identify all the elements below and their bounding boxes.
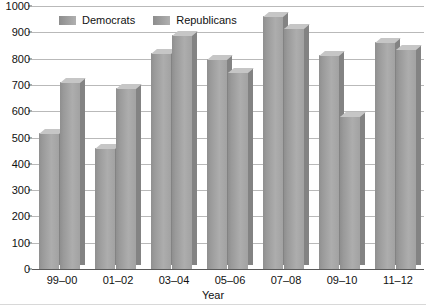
bar	[319, 55, 339, 269]
bar	[60, 82, 80, 269]
legend-label: Democrats	[82, 14, 135, 26]
gridline	[32, 269, 424, 270]
y-axis-tick-label: 300	[0, 184, 30, 196]
legend-swatch-icon	[59, 16, 76, 25]
legend-label: Republicans	[176, 14, 237, 26]
y-axis-tick-label: 900	[0, 26, 30, 38]
x-axis-tick-label: 05–06	[215, 274, 246, 286]
bar-side-face	[416, 45, 421, 265]
bar-front-face	[263, 16, 283, 269]
plot-area: 01002003004005006007008009001000	[32, 6, 424, 269]
bars-layer	[32, 6, 424, 269]
bar	[172, 35, 192, 269]
bar-side-face	[304, 24, 309, 265]
bar	[263, 16, 283, 269]
bar-front-face	[207, 59, 227, 269]
bar	[340, 116, 360, 269]
x-axis-tick-label: 09–10	[327, 274, 358, 286]
y-axis-tick-label: 800	[0, 53, 30, 65]
y-axis-tick-label: 700	[0, 79, 30, 91]
bar-front-face	[116, 88, 136, 269]
bar-front-face	[60, 82, 80, 269]
bar-side-face	[360, 112, 365, 265]
bar-front-face	[340, 116, 360, 269]
bar-group	[312, 6, 368, 269]
bar-front-face	[151, 53, 171, 269]
bar	[396, 49, 416, 269]
bar-front-face	[375, 42, 395, 269]
bar-group	[200, 6, 256, 269]
bar-group	[368, 6, 424, 269]
bar-front-face	[172, 35, 192, 269]
x-axis-tick-label: 99–00	[47, 274, 78, 286]
bar-front-face	[95, 148, 115, 269]
bar	[284, 28, 304, 269]
bar-chart: 01002003004005006007008009001000 99–0001…	[0, 0, 426, 305]
y-axis-tick-label: 1000	[0, 0, 30, 12]
bar-front-face	[319, 55, 339, 269]
y-axis-tick-label: 200	[0, 210, 30, 222]
bar-front-face	[396, 49, 416, 269]
bar-side-face	[80, 78, 85, 265]
x-axis-tick-label: 11–12	[383, 274, 413, 286]
bar-group	[144, 6, 200, 269]
y-axis-tick-label: 0	[0, 263, 30, 275]
bar	[39, 133, 59, 269]
bar-front-face	[284, 28, 304, 269]
y-axis-tick-label: 400	[0, 158, 30, 170]
bar-side-face	[192, 31, 197, 265]
bar	[228, 72, 248, 269]
y-axis-tick-label: 100	[0, 237, 30, 249]
x-axis-tick-label: 07–08	[271, 274, 302, 286]
bar	[207, 59, 227, 269]
chart-legend: Democrats Republicans	[59, 14, 237, 26]
bar-front-face	[228, 72, 248, 269]
bar-side-face	[136, 84, 141, 265]
legend-swatch-icon	[153, 16, 170, 25]
bar	[95, 148, 115, 269]
bar-front-face	[39, 133, 59, 269]
y-axis-tick-label: 500	[0, 132, 30, 144]
bar	[116, 88, 136, 269]
x-axis-tick-label: 03–04	[159, 274, 190, 286]
bar-group	[32, 6, 88, 269]
bar	[375, 42, 395, 269]
x-axis-title: Year	[0, 289, 426, 301]
legend-item-democrats: Democrats	[59, 14, 135, 26]
x-axis-tick-label: 01–02	[103, 274, 134, 286]
bar-group	[256, 6, 312, 269]
y-axis-tick-label: 600	[0, 105, 30, 117]
legend-item-republicans: Republicans	[153, 14, 237, 26]
bar	[151, 53, 171, 269]
bar-group	[88, 6, 144, 269]
bar-side-face	[248, 68, 253, 265]
